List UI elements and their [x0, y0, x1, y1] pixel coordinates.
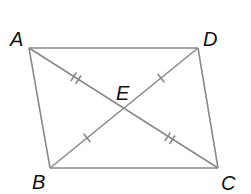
label-E: E	[116, 82, 130, 104]
label-A: A	[9, 28, 23, 50]
label-C: C	[221, 172, 236, 194]
side-BA	[29, 48, 50, 168]
parallelogram-diagram: A D E B C	[0, 0, 251, 194]
label-D: D	[203, 28, 217, 50]
diagonal-BD	[50, 48, 198, 168]
side-DC	[198, 48, 218, 168]
label-B: B	[32, 171, 45, 193]
